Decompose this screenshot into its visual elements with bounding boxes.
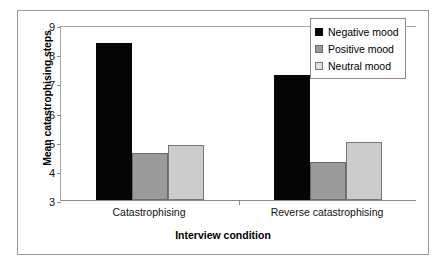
legend-swatch-positive	[315, 45, 323, 53]
legend-label: Negative mood	[328, 26, 399, 38]
x-axis-title: Interview condition	[0, 229, 446, 241]
y-axis-tick-label: 7	[49, 79, 55, 91]
x-axis-category-label: Catastrophising	[60, 206, 238, 218]
y-axis-tick-label: 4	[49, 167, 55, 179]
y-axis-tick-mark	[57, 27, 61, 28]
y-axis-tick-mark	[57, 56, 61, 57]
bar	[310, 162, 346, 200]
bar-chart-figure: Mean catastrophising steps 3456789 Inter…	[0, 0, 446, 269]
chart-legend: Negative moodPositive moodNeutral mood	[310, 18, 406, 79]
legend-item: Neutral mood	[315, 57, 399, 74]
y-axis-tick-mark	[57, 144, 61, 145]
y-axis-tick-mark	[57, 173, 61, 174]
bar	[96, 43, 132, 201]
x-axis-category-label: Reverse catastrophising	[238, 206, 416, 218]
legend-swatch-negative	[315, 28, 323, 36]
legend-label: Positive mood	[328, 43, 394, 55]
y-axis-tick-mark	[57, 85, 61, 86]
bar	[346, 142, 382, 200]
y-axis-tick-label: 8	[49, 50, 55, 62]
y-axis-tick-label: 5	[49, 138, 55, 150]
x-axis-group-tick	[239, 200, 240, 205]
y-axis-tick-label: 6	[49, 109, 55, 121]
bar	[274, 75, 310, 200]
legend-swatch-neutral	[315, 62, 323, 70]
bar	[132, 153, 168, 200]
y-axis-tick-label: 3	[49, 196, 55, 208]
y-axis-tick-mark	[57, 202, 61, 203]
y-axis-tick-label: 9	[49, 21, 55, 33]
bar	[168, 145, 204, 200]
y-axis-tick-mark	[57, 115, 61, 116]
legend-item: Positive mood	[315, 40, 399, 57]
legend-item: Negative mood	[315, 23, 399, 40]
legend-label: Neutral mood	[328, 60, 391, 72]
